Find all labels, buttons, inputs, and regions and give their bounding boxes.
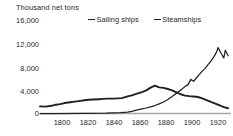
- series-line-sailing-ships: [40, 86, 228, 109]
- series-line-steamships: [40, 48, 228, 114]
- chart-container: Thousand net tons Sailing ships Steamshi…: [0, 0, 233, 136]
- chart-plot-area: [0, 0, 233, 136]
